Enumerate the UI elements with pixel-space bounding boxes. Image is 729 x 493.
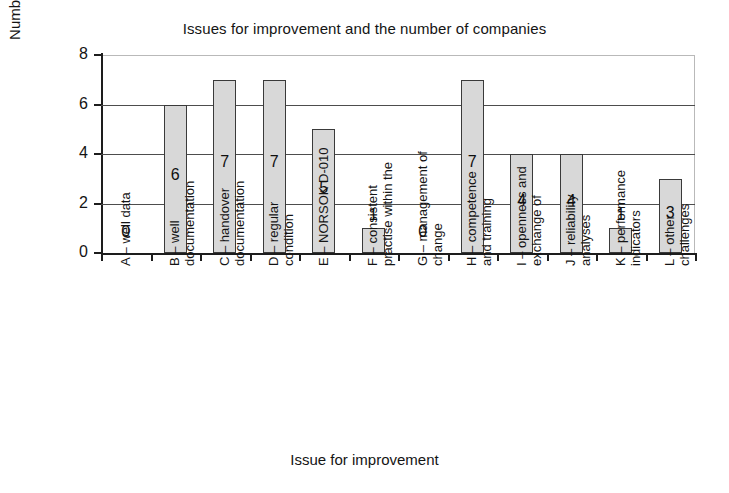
x-category-label-line: condition — [281, 214, 296, 266]
x-category-label-line: B – well — [167, 220, 182, 266]
x-category-label-line: C – handover — [217, 188, 232, 266]
x-category-label-line: documentation — [182, 181, 197, 266]
y-tick-6 — [94, 104, 101, 106]
x-category-label-line: documentation — [232, 181, 247, 266]
x-tick — [398, 253, 400, 261]
bar-value-label: 5 — [304, 179, 344, 197]
x-tick — [596, 253, 598, 261]
bar-value-label: 0 — [403, 223, 443, 241]
x-tick — [497, 253, 499, 261]
bar-value-label: 0 — [106, 223, 146, 241]
chart-title: Issues for improvement and the number of… — [0, 20, 729, 37]
bar-value-label: 1 — [601, 206, 641, 224]
gridline-6 — [101, 105, 695, 106]
x-tick — [646, 253, 648, 261]
plot-frame-top — [101, 55, 695, 56]
bar-value-label: 4 — [502, 192, 542, 210]
y-tick-8 — [94, 54, 101, 56]
y-tick-label: 0 — [62, 243, 88, 261]
y-tick-label: 2 — [62, 194, 88, 212]
x-tick — [200, 253, 202, 261]
y-tick-4 — [94, 153, 101, 155]
y-tick-2 — [94, 203, 101, 205]
x-category-label-line: G – management of — [415, 151, 430, 266]
x-category-label-line: H – competence — [464, 171, 479, 266]
y-tick-label: 8 — [62, 45, 88, 63]
bar-value-label: 7 — [254, 153, 294, 171]
x-category-label-line: analyses — [578, 215, 593, 266]
bar-value-label: 6 — [155, 166, 195, 184]
x-category-label-line: E – NORSOK D-010 — [316, 148, 331, 267]
x-tick — [299, 253, 301, 261]
x-tick — [101, 253, 103, 261]
x-tick — [448, 253, 450, 261]
x-category-label-line: L – other — [662, 215, 677, 266]
x-category-label-line: and training — [479, 198, 494, 266]
gridline-4 — [101, 154, 695, 155]
x-tick — [349, 253, 351, 261]
y-tick-0 — [94, 252, 101, 254]
y-tick-label: 4 — [62, 144, 88, 162]
x-axis-title: Issue for improvement — [0, 451, 729, 468]
x-category-label-line: F – consistent — [365, 185, 380, 266]
x-tick — [547, 253, 549, 261]
y-axis-title: Number of companies — [6, 0, 32, 74]
bar-value-label: 1 — [353, 206, 393, 224]
x-tick — [151, 253, 153, 261]
x-tick — [695, 253, 697, 261]
bar-value-label: 7 — [452, 153, 492, 171]
x-category-label-line: I – openness and — [514, 166, 529, 266]
bar-value-label: 3 — [650, 204, 690, 222]
y-tick-label: 6 — [62, 95, 88, 113]
x-tick — [250, 253, 252, 261]
bar-value-label: 4 — [551, 192, 591, 210]
x-category-label-line: D – regular — [266, 202, 281, 266]
bar-value-label: 7 — [205, 153, 245, 171]
